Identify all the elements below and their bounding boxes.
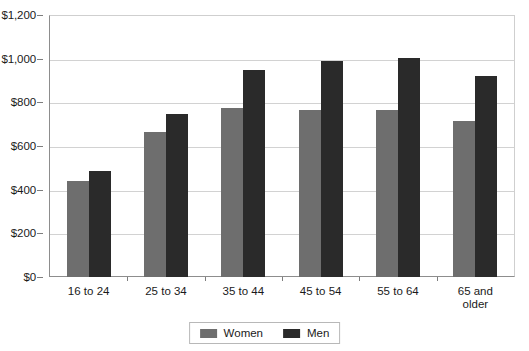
x-axis-tick-mark xyxy=(359,277,360,281)
bar-men xyxy=(243,70,265,277)
legend-item-women: Women xyxy=(200,327,263,339)
bar-women xyxy=(144,132,166,277)
bar-group xyxy=(67,15,111,277)
bar-group xyxy=(221,15,265,277)
y-axis-tick-mark xyxy=(37,277,43,278)
bar-women xyxy=(221,108,243,277)
x-axis-tick-mark xyxy=(282,277,283,281)
y-axis-tick-label: $800 xyxy=(11,96,36,108)
y-axis-tick-label: $1,200 xyxy=(1,9,36,21)
legend-label-men: Men xyxy=(307,327,329,339)
y-axis-tick-mark xyxy=(37,102,43,103)
legend-item-men: Men xyxy=(283,327,329,339)
bar-group xyxy=(144,15,188,277)
x-axis-tick-mark xyxy=(437,277,438,281)
y-axis-tick-mark xyxy=(37,59,43,60)
legend: Women Men xyxy=(189,322,341,344)
y-axis-tick-mark xyxy=(37,15,43,16)
bar-women xyxy=(67,181,89,277)
y-axis-tick-label: $400 xyxy=(11,184,36,196)
y-axis-tick-label: $200 xyxy=(11,227,36,239)
x-axis-tick-mark xyxy=(205,277,206,281)
bars-layer xyxy=(50,15,514,277)
bar-women xyxy=(376,110,398,277)
x-axis: 16 to 2425 to 3435 to 4445 to 5455 to 64… xyxy=(50,280,514,320)
bar-men xyxy=(475,76,497,277)
bar-men xyxy=(166,114,188,277)
bar-women xyxy=(299,110,321,277)
bar-men xyxy=(398,58,420,277)
bar-chart: $0$200$400$600$800$1,000$1,200 16 to 242… xyxy=(0,0,529,351)
y-axis-tick-mark xyxy=(37,146,43,147)
x-axis-tick-mark xyxy=(127,277,128,281)
y-axis-tick-mark xyxy=(37,233,43,234)
y-axis-tick-label: $600 xyxy=(11,140,36,152)
legend-label-women: Women xyxy=(224,327,263,339)
bar-group xyxy=(299,15,343,277)
bar-group xyxy=(376,15,420,277)
y-axis-tick-mark xyxy=(37,190,43,191)
bar-women xyxy=(453,121,475,277)
y-axis: $0$200$400$600$800$1,000$1,200 xyxy=(0,0,49,292)
legend-swatch-women xyxy=(200,329,217,338)
y-axis-tick-label: $1,000 xyxy=(1,53,36,65)
x-axis-tick-label: 65 and older xyxy=(430,285,520,311)
legend-swatch-men xyxy=(283,329,300,338)
y-axis-tick-label: $0 xyxy=(23,271,36,283)
bar-men xyxy=(321,61,343,277)
bar-group xyxy=(453,15,497,277)
bar-men xyxy=(89,171,111,277)
